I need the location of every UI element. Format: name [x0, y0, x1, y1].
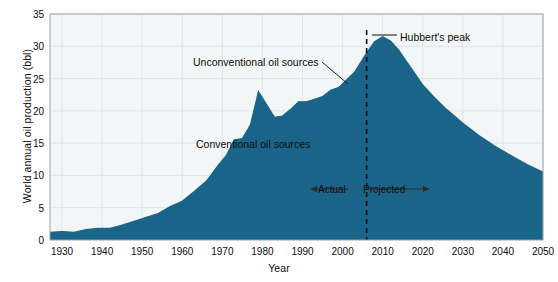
x-tick-label-1950: 1950: [120, 246, 164, 257]
x-tick-label-2040: 2040: [481, 246, 525, 257]
y-tick-label-5: 5: [18, 202, 44, 213]
x-tick-label-1930: 1930: [40, 246, 84, 257]
x-tick-label-2010: 2010: [361, 246, 405, 257]
x-tick-label-2030: 2030: [441, 246, 485, 257]
y-tick-label-30: 30: [18, 41, 44, 52]
x-tick-label-1980: 1980: [240, 246, 284, 257]
x-tick-label-2000: 2000: [321, 246, 365, 257]
x-tick-label-1970: 1970: [200, 246, 244, 257]
x-tick-label-1990: 1990: [281, 246, 325, 257]
y-tick-label-20: 20: [18, 105, 44, 116]
x-tick-label-2020: 2020: [401, 246, 445, 257]
y-tick-label-10: 10: [18, 170, 44, 181]
annotation-actual: Actual: [318, 184, 346, 195]
y-axis-title: World annual oil production (bbl): [21, 26, 33, 226]
y-tick-label-35: 35: [18, 9, 44, 20]
y-tick-label-15: 15: [18, 138, 44, 149]
y-tick-label-0: 0: [18, 235, 44, 246]
oil-production-chart-figure: World annual oil production (bbl) Year 0…: [0, 0, 558, 282]
x-tick-label-2050: 2050: [521, 246, 558, 257]
annotation-unconventional-oil-sources: Unconventional oil sources: [193, 56, 319, 68]
annotation-projected: Projected: [363, 184, 405, 195]
annotation-conventional-oil-sources: Conventional oil sources: [196, 138, 310, 150]
x-tick-label-1960: 1960: [160, 246, 204, 257]
x-tick-label-1940: 1940: [80, 246, 124, 257]
x-axis-title: Year: [0, 262, 558, 274]
y-tick-label-25: 25: [18, 73, 44, 84]
annotation-hubberts-peak: Hubbert's peak: [400, 31, 470, 43]
